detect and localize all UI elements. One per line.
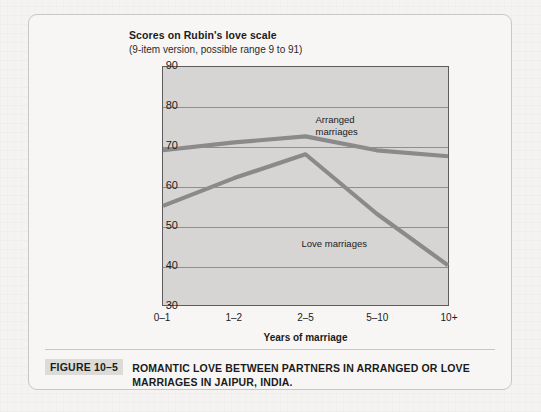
plot-wrap: 30405060708090 0–11–22–55–1010+ Arranged… (127, 62, 467, 324)
x-axis-title: Years of marriage (162, 332, 449, 343)
figure-caption-text: ROMANTIC LOVE BETWEEN PARTNERS IN ARRANG… (132, 359, 493, 389)
series-label-arranged: Arranged marriages (316, 114, 358, 137)
y-tick-label: 40 (148, 259, 178, 271)
chart-block: Scores on Rubin's love scale (9-item ver… (127, 29, 467, 339)
figure-number-tag: FIGURE 10–5 (45, 359, 123, 375)
x-tick-label: 2–5 (297, 312, 314, 323)
plot-area (162, 66, 449, 306)
gridline-70 (163, 147, 448, 148)
y-tick-label: 70 (148, 139, 178, 151)
gridline-80 (163, 107, 448, 108)
y-tick-label: 50 (148, 219, 178, 231)
series-lines (163, 67, 448, 305)
series-label-love: Love marriages (302, 238, 367, 250)
x-tick-label: 0–1 (154, 312, 171, 323)
caption-divider (45, 349, 495, 350)
y-tick-label: 60 (148, 179, 178, 191)
gridline-40 (163, 267, 448, 268)
x-tick-label: 10+ (441, 312, 458, 323)
figure-card: Scores on Rubin's love scale (9-item ver… (28, 14, 512, 390)
gridline-50 (163, 227, 448, 228)
x-tick-label: 5–10 (366, 312, 388, 323)
y-tick-label: 30 (148, 299, 178, 311)
y-tick-label: 90 (148, 59, 178, 71)
gridline-60 (163, 187, 448, 188)
chart-subtitle: (9-item version, possible range 9 to 91) (129, 43, 467, 56)
x-tick-label: 1–2 (225, 312, 242, 323)
chart-title: Scores on Rubin's love scale (129, 29, 467, 42)
y-tick-label: 80 (148, 99, 178, 111)
figure-caption: FIGURE 10–5 ROMANTIC LOVE BETWEEN PARTNE… (45, 359, 493, 389)
